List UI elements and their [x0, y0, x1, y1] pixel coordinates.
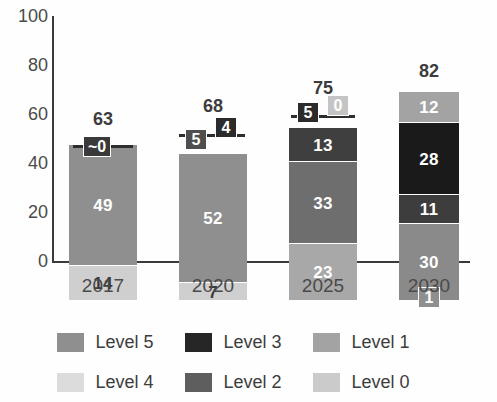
bar-group-2017[interactable]: 63 14 49 ~0 [69, 39, 137, 300]
legend-swatch-icon [313, 373, 340, 392]
x-tick-label-2020: 2020 [168, 276, 258, 295]
legend-item-level-0[interactable]: Level 0 [313, 373, 441, 392]
stacked-bar-chart: 100 80 60 40 20 0 63 14 49 ~0 [0, 0, 497, 402]
bar-callout-2017-level3[interactable]: ~0 [83, 136, 111, 157]
bar-group-2025[interactable]: 75 23 33 13 5 0 [289, 39, 357, 300]
y-tick-label-20: 20 [4, 203, 48, 221]
y-axis-line [52, 16, 54, 263]
legend-swatch-icon [185, 333, 212, 352]
bar-segment-value: 49 [69, 197, 137, 214]
bar-callout-2025-level1[interactable]: 5 [297, 102, 319, 123]
bar-segment-2030-level3[interactable]: 28 [399, 122, 459, 194]
bar-group-2020[interactable]: 68 7 52 5 4 [179, 39, 247, 300]
plot-area: 100 80 60 40 20 0 63 14 49 ~0 [0, 0, 497, 300]
legend-label: Level 4 [96, 373, 154, 391]
bar-callout-value: ~0 [88, 139, 106, 155]
bar-segment-value: 11 [399, 201, 459, 218]
legend-label: Level 0 [352, 373, 410, 391]
bar-callout-2020-level3[interactable]: 5 [185, 129, 207, 150]
chart-legend: Level 5 Level 3 Level 1 Level 4 Level 2 [0, 322, 497, 402]
y-tick-label-80: 80 [4, 56, 48, 74]
bar-stack-2025: 23 33 13 [289, 39, 357, 300]
bar-callout-value: 4 [222, 120, 231, 136]
bar-segment-value: 13 [289, 136, 357, 153]
bar-segment-2025-level5[interactable]: 33 [289, 161, 357, 243]
bar-segment-2017-level5[interactable]: 49 [69, 144, 137, 265]
x-tick-label-2017: 2017 [58, 276, 148, 295]
legend-item-level-5[interactable]: Level 5 [57, 333, 185, 352]
bar-callout-value: 0 [334, 98, 343, 114]
legend-row-top: Level 5 Level 3 Level 1 [0, 326, 497, 358]
y-tick-label-0: 0 [4, 252, 48, 270]
x-tick-label-2030: 2030 [384, 276, 474, 295]
y-tick-label-100: 100 [4, 7, 48, 25]
legend-item-level-2[interactable]: Level 2 [185, 373, 313, 392]
legend-swatch-icon [57, 373, 84, 392]
bar-segment-2025-level3[interactable]: 13 [289, 127, 357, 161]
bar-callout-2025-level0[interactable]: 0 [327, 95, 349, 116]
bar-stack-2030: 30 11 28 12 [399, 39, 459, 300]
bar-segment-value: 52 [179, 210, 247, 227]
bar-callout-value: 5 [192, 132, 201, 148]
y-tick-label-60: 60 [4, 105, 48, 123]
legend-swatch-icon [313, 333, 340, 352]
bar-segment-value: 12 [399, 99, 459, 116]
bar-segment-value: 30 [399, 254, 459, 271]
bar-segment-2020-level5[interactable]: 52 [179, 153, 247, 282]
bar-group-2030[interactable]: 82 30 11 28 12 1 [399, 39, 459, 300]
legend-item-level-1[interactable]: Level 1 [313, 333, 441, 352]
bar-callout-2020-level2[interactable]: 4 [215, 117, 237, 138]
bar-segment-value: 28 [399, 150, 459, 167]
legend-row-bottom: Level 4 Level 2 Level 0 [0, 366, 497, 398]
legend-swatch-icon [57, 333, 84, 352]
legend-item-level-3[interactable]: Level 3 [185, 333, 313, 352]
y-tick-label-40: 40 [4, 154, 48, 172]
bar-segment-value: 33 [289, 194, 357, 211]
legend-item-level-4[interactable]: Level 4 [57, 373, 185, 392]
y-axis-tick-labels: 100 80 60 40 20 0 [0, 0, 48, 300]
legend-label: Level 3 [224, 333, 282, 351]
x-tick-label-2025: 2025 [278, 276, 368, 295]
bar-stack-2020: 7 52 [179, 39, 247, 300]
legend-label: Level 2 [224, 373, 282, 391]
legend-swatch-icon [185, 373, 212, 392]
bar-segment-2030-level1[interactable]: 12 [399, 91, 459, 122]
bar-stack-2017: 14 49 [69, 39, 137, 300]
bar-callout-value: 5 [304, 105, 313, 121]
legend-label: Level 5 [96, 333, 154, 351]
legend-label: Level 1 [352, 333, 410, 351]
bar-segment-2030-level2[interactable]: 11 [399, 194, 459, 223]
